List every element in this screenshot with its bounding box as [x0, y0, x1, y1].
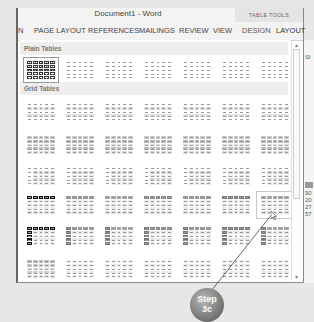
step-number: 3c — [190, 304, 224, 314]
step-callout-badge: Step 3c — [190, 288, 224, 322]
step-label: Step — [190, 294, 224, 304]
mouse-cursor-icon — [271, 211, 277, 220]
